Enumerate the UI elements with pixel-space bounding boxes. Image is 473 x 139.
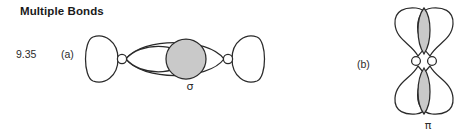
- figure-page: Multiple Bonds 9.35 (a) σ (b): [0, 0, 473, 139]
- pi-right-nucleus: [428, 57, 437, 66]
- problem-number: 9.35: [16, 48, 36, 60]
- pi-symbol-label: π: [408, 119, 448, 132]
- sigma-overlap-shaded-region: [166, 39, 206, 79]
- pi-bond-diagram: [392, 4, 456, 118]
- sigma-left-outer-lobe: [86, 36, 119, 82]
- sigma-right-nucleus: [223, 54, 232, 63]
- part-label-a: (a): [61, 48, 74, 60]
- sigma-right-outer-lobe: [232, 36, 265, 82]
- part-label-b: (b): [357, 58, 370, 70]
- pi-left-nucleus: [412, 57, 421, 66]
- sigma-left-nucleus: [117, 54, 126, 63]
- page-title: Multiple Bonds: [20, 5, 104, 17]
- sigma-symbol-label: σ: [170, 80, 210, 93]
